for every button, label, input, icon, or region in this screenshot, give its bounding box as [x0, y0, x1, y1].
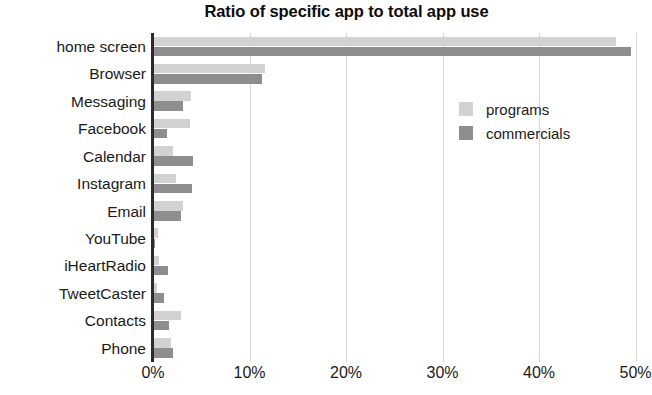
bar-group — [153, 335, 637, 362]
y-axis-tick-label: home screen — [0, 33, 146, 60]
bar-commercials — [153, 101, 183, 111]
legend-swatch-icon — [459, 102, 473, 116]
legend-item: programs — [459, 98, 629, 120]
y-axis-tick-label: iHeartRadio — [0, 252, 146, 279]
bar-programs — [153, 91, 191, 101]
chart-legend: programscommercials — [459, 98, 629, 146]
bar-group — [153, 225, 637, 252]
y-axis-tick-label: YouTube — [0, 225, 146, 252]
bar-programs — [153, 37, 616, 47]
bar-commercials — [153, 184, 192, 194]
bar-programs — [153, 338, 171, 348]
y-axis-tick-label: Contacts — [0, 307, 146, 334]
bar-commercials — [153, 129, 167, 139]
legend-label: programs — [486, 101, 549, 118]
bar-programs — [153, 311, 181, 321]
bar-commercials — [153, 211, 181, 221]
bar-programs — [153, 283, 157, 293]
bar-programs — [153, 146, 173, 156]
y-axis-tick-label: Email — [0, 198, 146, 225]
x-axis-labels: 0%10%20%30%40%50% — [0, 364, 647, 392]
y-axis-tick-label: Phone — [0, 335, 146, 362]
bar-commercials — [153, 293, 164, 303]
y-axis-tick-label: Facebook — [0, 115, 146, 142]
bar-group — [153, 143, 637, 170]
bar-group — [153, 307, 637, 334]
bar-programs — [153, 228, 158, 238]
bar-commercials — [153, 156, 193, 166]
chart-title: Ratio of specific app to total app use — [0, 2, 647, 21]
bar-group — [153, 198, 637, 225]
x-axis-tick-label: 40% — [523, 364, 555, 382]
y-axis-tick-label: Messaging — [0, 88, 146, 115]
x-axis-tick-label: 50% — [619, 364, 651, 382]
x-axis-tick-label: 0% — [141, 364, 164, 382]
bar-group — [153, 33, 637, 60]
legend-label: commercials — [486, 125, 570, 142]
bar-programs — [153, 64, 265, 74]
bar-programs — [153, 174, 176, 184]
y-axis-line — [151, 33, 154, 362]
y-axis-tick-label: Calendar — [0, 143, 146, 170]
y-axis-tick-label: Instagram — [0, 170, 146, 197]
x-axis-tick-label: 20% — [330, 364, 362, 382]
plot-area — [153, 33, 637, 362]
bar-group — [153, 60, 637, 87]
bar-commercials — [153, 47, 631, 57]
bar-commercials — [153, 321, 169, 331]
bar-group — [153, 280, 637, 307]
y-axis-labels: home screenBrowserMessagingFacebookCalen… — [0, 33, 146, 362]
bar-commercials — [153, 348, 173, 358]
x-axis-tick-label: 30% — [426, 364, 458, 382]
x-axis-tick-label: 10% — [233, 364, 265, 382]
bar-programs — [153, 256, 159, 266]
legend-swatch-icon — [459, 126, 473, 140]
bar-group — [153, 170, 637, 197]
bar-group — [153, 252, 637, 279]
bar-programs — [153, 119, 190, 129]
bar-programs — [153, 201, 183, 211]
y-axis-tick-label: Browser — [0, 60, 146, 87]
bar-commercials — [153, 266, 168, 276]
y-axis-tick-label: TweetCaster — [0, 280, 146, 307]
legend-item: commercials — [459, 122, 629, 144]
bar-commercials — [153, 74, 262, 84]
